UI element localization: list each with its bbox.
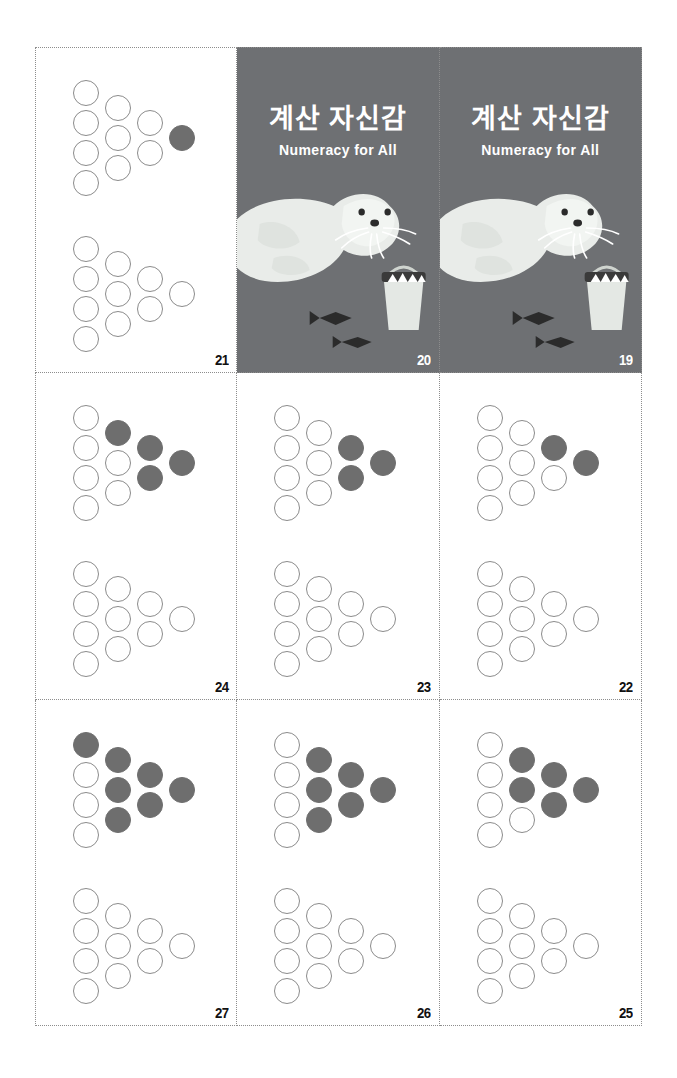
card-page-number: 22 (619, 678, 633, 695)
dot-pattern-bottom-column-3 (137, 266, 167, 326)
dot-open (477, 918, 503, 944)
dot-pattern-top-column-3 (137, 110, 167, 170)
dot-open (73, 948, 99, 974)
dot-open (169, 281, 195, 307)
cover-subtitle: Numeracy for All (237, 142, 438, 158)
seal-nose (573, 220, 582, 227)
dot-open (73, 465, 99, 491)
dot-open (105, 636, 131, 662)
swimming-fish-1 (310, 311, 352, 325)
flashcard-24[interactable]: 24 (35, 373, 237, 699)
fish-bucket (584, 267, 628, 330)
flashcard-27[interactable]: 27 (35, 700, 237, 1026)
seal-eye-right (587, 208, 593, 215)
dot-open (477, 621, 503, 647)
dot-open (509, 606, 535, 632)
dot-pattern-card (440, 373, 641, 698)
dot-open (137, 296, 163, 322)
dot-pattern-bottom-column-4 (370, 933, 400, 963)
dot-open (105, 480, 131, 506)
dot-pattern-bottom-column-4 (370, 606, 400, 636)
dot-open (137, 621, 163, 647)
dot-filled (338, 465, 364, 491)
dot-filled (509, 777, 535, 803)
dot-filled (105, 420, 131, 446)
swimming-fish-1 (512, 311, 554, 325)
card-page-number: 23 (417, 678, 431, 695)
dot-open (477, 762, 503, 788)
dot-pattern-bottom-column-4 (169, 933, 199, 963)
flashcard-26[interactable]: 26 (237, 700, 439, 1026)
dot-pattern-top-column-3 (137, 435, 167, 495)
dot-open (306, 450, 332, 476)
dot-filled (169, 777, 195, 803)
dot-open (306, 963, 332, 989)
dot-filled (541, 792, 567, 818)
card-page-number: 24 (215, 678, 229, 695)
dot-filled (306, 747, 332, 773)
dot-open (477, 888, 503, 914)
dot-open (73, 792, 99, 818)
dot-open (541, 621, 567, 647)
seal-eye-left (561, 208, 567, 215)
dot-open (105, 311, 131, 337)
card-page-number: 19 (619, 351, 633, 368)
dot-pattern-bottom-column-3 (541, 591, 571, 651)
dot-pattern-top-column-1 (73, 732, 103, 852)
dot-pattern-bottom-column-3 (338, 918, 368, 978)
dot-pattern-bottom-column-3 (338, 591, 368, 651)
dot-open (73, 80, 99, 106)
dot-pattern-top-column-2 (306, 747, 336, 837)
dot-open (73, 236, 99, 262)
flashcard-20[interactable]: 계산 자신감Numeracy for All (237, 47, 439, 373)
dot-pattern-bottom-column-1 (274, 561, 304, 681)
dot-open (73, 762, 99, 788)
flashcard-22[interactable]: 22 (440, 373, 642, 699)
dot-pattern-top-column-1 (73, 405, 103, 525)
dot-open (477, 822, 503, 848)
dot-filled (573, 777, 599, 803)
dot-open (509, 450, 535, 476)
dot-pattern-top-column-2 (105, 420, 135, 510)
dot-pattern-bottom-column-1 (73, 888, 103, 1008)
dot-pattern-top-column-3 (338, 762, 368, 822)
flashcard-19[interactable]: 계산 자신감Numeracy for All (440, 47, 642, 373)
flashcard-25[interactable]: 25 (440, 700, 642, 1026)
dot-pattern-top-column-2 (105, 95, 135, 185)
dot-open (477, 978, 503, 1004)
dot-filled (338, 435, 364, 461)
flashcard-23[interactable]: 23 (237, 373, 439, 699)
dot-pattern-card (36, 48, 236, 372)
dot-open (477, 651, 503, 677)
dot-open (274, 948, 300, 974)
dot-open (477, 792, 503, 818)
dot-open (73, 888, 99, 914)
dot-pattern-top-column-4 (573, 777, 603, 807)
cover-artwork (237, 166, 438, 372)
dot-pattern-bottom-column-2 (105, 576, 135, 666)
dot-open (105, 450, 131, 476)
dot-open (73, 170, 99, 196)
dot-open (73, 822, 99, 848)
dot-open (338, 621, 364, 647)
dot-open (274, 888, 300, 914)
cover-content: 계산 자신감Numeracy for All (237, 48, 438, 372)
dot-filled (306, 807, 332, 833)
dot-pattern-bottom-column-3 (137, 918, 167, 978)
dot-pattern-top-column-4 (169, 450, 199, 480)
dot-filled (573, 450, 599, 476)
dot-pattern-top-column-1 (477, 732, 507, 852)
dot-open (477, 405, 503, 431)
dot-open (105, 281, 131, 307)
flashcard-21[interactable]: 21 (35, 47, 237, 373)
dot-open (137, 918, 163, 944)
card-page-number: 20 (417, 351, 431, 368)
dot-open (137, 948, 163, 974)
dot-filled (137, 465, 163, 491)
dot-pattern-top-column-1 (274, 405, 304, 525)
dot-open (509, 933, 535, 959)
dot-open (541, 465, 567, 491)
dot-open (274, 651, 300, 677)
dot-open (306, 903, 332, 929)
dot-pattern-top-column-2 (306, 420, 336, 510)
